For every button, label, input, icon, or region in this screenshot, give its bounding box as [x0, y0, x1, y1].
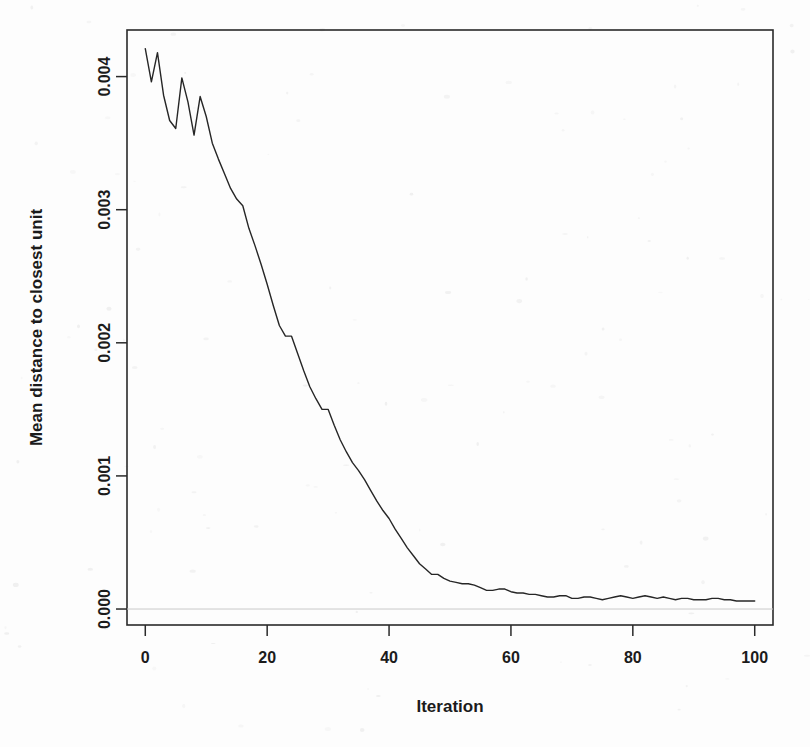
x-tick-label-40: 40 [380, 649, 398, 666]
scan-speck [296, 119, 300, 122]
scan-speck [703, 537, 709, 541]
scan-speck [182, 704, 185, 708]
scan-speck [133, 181, 135, 182]
scan-speck [136, 248, 141, 251]
scan-speck [476, 442, 478, 446]
scan-speck [689, 444, 692, 447]
scan-speck [105, 116, 111, 119]
scan-speck [86, 21, 91, 23]
x-axis-title: Iteration [416, 697, 483, 716]
scan-speck [516, 299, 522, 303]
scan-speck [4, 632, 9, 635]
scan-speck [678, 709, 681, 711]
x-tick-label-20: 20 [258, 649, 276, 666]
scan-speck [238, 725, 244, 728]
scan-speck [680, 117, 683, 120]
scan-speck [313, 486, 317, 488]
scan-speck [688, 612, 694, 614]
scan-speck [306, 484, 310, 486]
scan-speck [554, 112, 558, 114]
scan-speck [310, 73, 314, 76]
x-tick-label-80: 80 [624, 649, 642, 666]
scan-speck [184, 72, 186, 74]
scan-speck [152, 667, 156, 671]
scan-speck [356, 611, 358, 613]
scan-speck [130, 73, 136, 77]
scan-speck [725, 678, 729, 679]
scan-speck [115, 173, 120, 175]
scan-speck [227, 280, 232, 282]
scan-speck [357, 382, 359, 384]
scan-speck [550, 385, 556, 388]
scan-speck [687, 257, 689, 260]
x-tick-label-100: 100 [741, 649, 768, 666]
scan-speck [602, 327, 605, 330]
scan-speck [190, 570, 196, 573]
scan-speck [760, 294, 764, 298]
scan-speck [448, 385, 454, 386]
scan-speck [88, 568, 94, 571]
y-tick-label-0.002: 0.002 [97, 323, 114, 363]
scan-speck [401, 24, 405, 26]
scan-speck [619, 339, 622, 341]
scan-speck [560, 661, 562, 663]
y-tick-label-0.001: 0.001 [97, 456, 114, 496]
scan-speck [664, 160, 666, 162]
scan-speck [506, 81, 512, 84]
scan-speck [353, 319, 357, 321]
scan-speck [790, 49, 794, 53]
scan-speck [106, 307, 111, 311]
scan-speck [158, 213, 160, 217]
x-tick-label-0: 0 [141, 649, 150, 666]
y-tick-label-0.003: 0.003 [97, 190, 114, 230]
scan-speck [170, 33, 176, 36]
scan-speck [157, 508, 160, 512]
scan-speck [67, 336, 70, 339]
scan-speck [701, 580, 705, 584]
scan-speck [369, 592, 372, 594]
scan-speck [601, 528, 605, 530]
scan-speck [203, 514, 206, 516]
scan-speck [737, 82, 739, 86]
scan-speck [303, 385, 308, 387]
scan-speck [599, 396, 605, 400]
scan-speck [673, 478, 679, 479]
scan-speck [197, 455, 203, 459]
scan-speck [267, 154, 269, 155]
scan-speck [18, 645, 21, 648]
scan-speck [211, 643, 216, 644]
scan-speck [385, 402, 388, 406]
scan-speck [588, 664, 592, 666]
line-chart: 020406080100 0.0000.0010.0020.0030.004 I… [0, 0, 810, 747]
scan-speck [623, 119, 626, 121]
scan-speck [367, 688, 369, 689]
scan-speck [123, 338, 125, 342]
scan-speck [410, 193, 413, 196]
scan-speck [741, 8, 746, 11]
scan-speck [674, 84, 676, 88]
scan-speck [286, 92, 288, 95]
scan-speck [444, 95, 450, 99]
y-axis-title: Mean distance to closest unit [27, 209, 46, 446]
x-tick-label-60: 60 [502, 649, 520, 666]
scan-speck [153, 445, 156, 449]
scan-speck [440, 543, 445, 546]
scan-speck [585, 352, 588, 356]
scan-speck [160, 428, 164, 430]
scan-speck [686, 685, 688, 687]
scan-speck [503, 411, 505, 413]
scan-speck [651, 173, 654, 176]
scan-speck [445, 291, 451, 294]
scan-speck [808, 299, 810, 300]
scan-speck [638, 217, 640, 219]
scan-speck [587, 236, 588, 238]
scan-speck [193, 107, 196, 108]
scan-speck [206, 527, 211, 529]
scan-speck [526, 381, 530, 383]
scan-speck [30, 6, 33, 10]
scan-speck [421, 398, 427, 402]
scan-speck [687, 148, 689, 150]
scan-speck [70, 170, 76, 174]
chart-background [0, 0, 810, 747]
scan-speck [624, 565, 629, 568]
